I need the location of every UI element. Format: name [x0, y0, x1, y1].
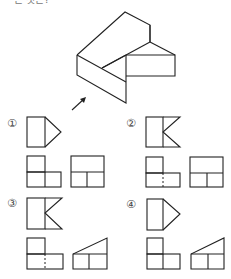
option-2-front-view	[146, 117, 180, 147]
option-2-top-view	[146, 157, 180, 187]
option-4-top-view	[147, 238, 180, 269]
front-view-arrow	[72, 97, 86, 110]
option-1-side-view	[71, 156, 104, 187]
option-2[interactable]: ②	[126, 117, 223, 187]
option-2-side-view	[190, 157, 223, 187]
option-1-label: ①	[7, 117, 17, 130]
option-3-label: ③	[7, 197, 17, 210]
question-text-cutoff: 은 것은?	[14, 0, 50, 5]
option-4-front-view	[147, 199, 180, 230]
option-1-front-view	[27, 117, 61, 147]
option-1-top-view	[27, 156, 61, 187]
option-3-top-view	[27, 238, 63, 269]
diagram-canvas: 은 것은? ①	[0, 0, 231, 279]
option-2-label: ②	[126, 117, 136, 130]
isometric-object	[77, 12, 175, 103]
option-4[interactable]: ④	[126, 198, 224, 269]
option-4-side-view	[191, 238, 224, 269]
option-1[interactable]: ①	[7, 117, 104, 187]
option-4-label: ④	[126, 198, 136, 211]
option-3-side-view	[73, 238, 107, 269]
option-3[interactable]: ③	[7, 197, 107, 269]
option-3-front-view	[27, 198, 62, 229]
